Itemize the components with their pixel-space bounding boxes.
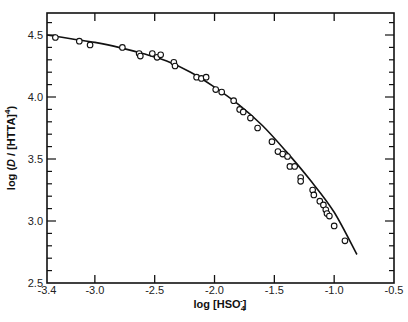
x-tick-labels: -3.4-3.0-2.5-2.0-1.5-1.0-0.5 bbox=[38, 284, 404, 296]
data-point-marker bbox=[298, 179, 304, 185]
x-tick-label: -2.5 bbox=[145, 284, 164, 296]
x-tick-label: -1.0 bbox=[325, 284, 344, 296]
y-tick-label: 2.5 bbox=[28, 277, 43, 289]
data-point-marker bbox=[255, 125, 261, 131]
data-point-marker bbox=[203, 74, 209, 80]
y-tick-label: 3.0 bbox=[28, 215, 43, 227]
data-point-marker bbox=[292, 164, 298, 170]
data-point-marker bbox=[240, 109, 246, 115]
data-point-marker bbox=[120, 45, 126, 51]
data-point-marker bbox=[231, 98, 237, 104]
data-point-marker bbox=[77, 38, 83, 44]
plot-area bbox=[47, 13, 394, 283]
x-tick-label: -2.0 bbox=[205, 284, 224, 296]
x-tick-label: -0.5 bbox=[385, 284, 404, 296]
data-point-marker bbox=[87, 42, 93, 48]
chart: -3.4-3.0-2.5-2.0-1.5-1.0-0.5 2.53.03.54.… bbox=[0, 0, 408, 322]
y-tick-label: 4.5 bbox=[28, 29, 43, 41]
data-point-marker bbox=[331, 223, 337, 229]
data-point-marker bbox=[285, 154, 291, 160]
data-point-marker bbox=[248, 115, 254, 121]
data-point-marker bbox=[53, 35, 59, 41]
y-tick-label: 3.5 bbox=[28, 153, 43, 165]
y-tick-label: 4.0 bbox=[28, 91, 43, 103]
data-point-marker bbox=[269, 139, 275, 145]
data-point-marker bbox=[219, 89, 225, 95]
data-point-marker bbox=[138, 53, 144, 59]
y-tick-labels: 2.53.03.54.04.5 bbox=[28, 29, 43, 289]
data-point-marker bbox=[311, 192, 317, 198]
x-tick-label: -3.0 bbox=[85, 284, 104, 296]
y-label-italic: D bbox=[5, 159, 17, 167]
y-axis-label: log (D / [HTTA]4) bbox=[3, 106, 17, 191]
x-tick-label: -1.5 bbox=[265, 284, 284, 296]
data-point-marker bbox=[342, 238, 348, 244]
data-point-marker bbox=[172, 63, 178, 69]
x-axis-label: log [HSO4-] bbox=[194, 296, 247, 313]
data-point-marker bbox=[213, 87, 219, 93]
data-point-marker bbox=[158, 52, 164, 58]
data-point-marker bbox=[327, 213, 333, 219]
